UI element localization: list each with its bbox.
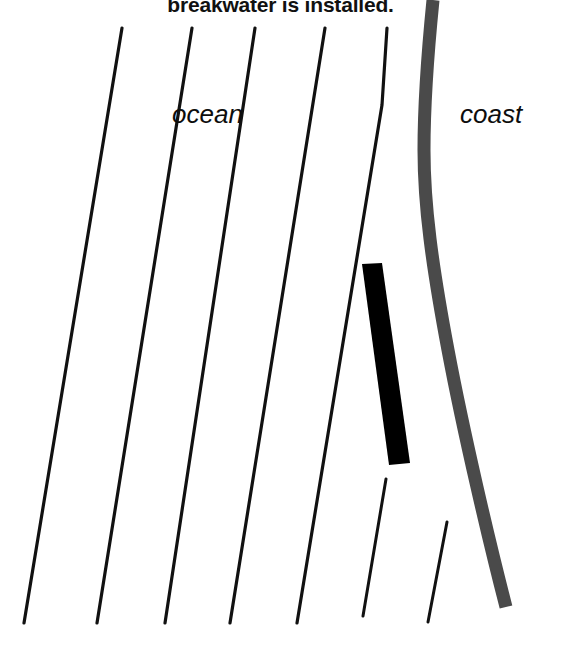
diffracted-wave-group <box>363 479 447 622</box>
breakwater-structure <box>362 263 410 465</box>
diffracted-wave-2 <box>428 522 447 622</box>
coastline-band <box>424 0 506 607</box>
figure-container: breakwater is installed. ocean coast <box>0 0 561 659</box>
diffracted-wave-1 <box>363 479 386 616</box>
wave-crest-1 <box>24 28 122 623</box>
label-ocean: ocean <box>172 99 243 130</box>
label-coast: coast <box>460 99 522 130</box>
